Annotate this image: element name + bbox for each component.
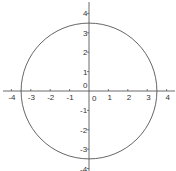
x-tick-label: -2 [47, 93, 55, 102]
y-tick-label: 4 [83, 9, 88, 18]
y-tick-label: 2 [83, 48, 88, 57]
x-tick-label: 2 [127, 93, 132, 102]
y-tick-label: 3 [83, 29, 88, 38]
x-tick-label: 4 [166, 93, 171, 102]
y-tick-label: 1 [83, 68, 88, 77]
origin-label-x: 0 [92, 94, 97, 103]
tick-labels: -4-3-2-112344321-1-2-3-400 [8, 9, 170, 171]
y-tick-label: -3 [80, 145, 88, 154]
circle-plot: -4-3-2-112344321-1-2-3-400 [0, 0, 176, 171]
y-tick-label: -1 [80, 106, 88, 115]
axes [3, 2, 175, 171]
y-tick-label: -4 [80, 165, 88, 171]
x-tick-label: 1 [107, 93, 112, 102]
x-tick-label: -4 [8, 93, 16, 102]
origin-label-y: 0 [83, 81, 88, 90]
x-tick-label: -3 [28, 93, 36, 102]
x-tick-label: 3 [146, 93, 151, 102]
y-tick-label: -2 [80, 126, 88, 135]
x-tick-label: -1 [67, 93, 75, 102]
